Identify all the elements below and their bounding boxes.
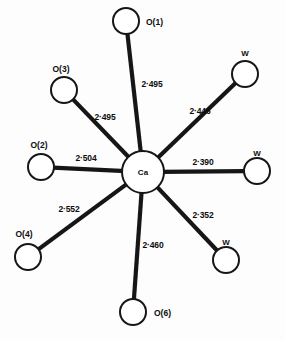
- atom-circle-w1: [232, 61, 258, 87]
- atom-label-o6: O(6): [154, 308, 171, 318]
- bond-length-label-w3: 2·352: [192, 210, 214, 220]
- atom-label-o1: O(1): [146, 17, 163, 27]
- bond-line-w2: [160, 171, 245, 172]
- atom-circle-o6: [120, 299, 146, 325]
- atom-label-w2: W: [253, 149, 261, 158]
- bond-line-o1: [127, 33, 141, 155]
- bond-length-label-w1: 2·446: [189, 106, 211, 116]
- bond-line-o6: [134, 189, 142, 300]
- center-atom-label: Ca: [138, 168, 149, 177]
- atom-label-o3: O(3): [53, 64, 70, 74]
- bond-length-label-o6: 2·460: [142, 240, 164, 250]
- atom-circle-o1: [113, 8, 139, 34]
- bond-line-o2: [53, 168, 126, 172]
- bond-length-label-o4: 2·552: [58, 204, 80, 214]
- bond-line-o3: [72, 99, 131, 160]
- bond-length-label-o3: 2·495: [94, 112, 116, 122]
- atom-label-w3: W: [222, 238, 230, 247]
- atom-circle-w3: [213, 247, 239, 273]
- bond-length-label-o2: 2·504: [75, 153, 97, 163]
- atom-label-o2: O(2): [31, 140, 48, 150]
- coordination-diagram: O(1)2·495W2·446W2·390W2·352O(6)2·460O(4)…: [0, 0, 285, 341]
- atom-label-o4: O(4): [16, 229, 33, 239]
- atom-circle-o3: [51, 77, 77, 103]
- atom-label-w1: W: [241, 49, 249, 58]
- bond-line-o4: [38, 182, 130, 250]
- bond-line-w1: [155, 82, 236, 160]
- atom-circle-o2: [28, 154, 54, 180]
- atom-circle-o4: [15, 244, 41, 270]
- atom-circle-w2: [244, 158, 270, 184]
- bond-length-label-o1: 2·495: [141, 79, 163, 89]
- atom-layer: [15, 8, 270, 325]
- structure-svg: O(1)2·495W2·446W2·390W2·352O(6)2·460O(4)…: [0, 0, 285, 341]
- bond-length-label-w2: 2·390: [192, 157, 214, 167]
